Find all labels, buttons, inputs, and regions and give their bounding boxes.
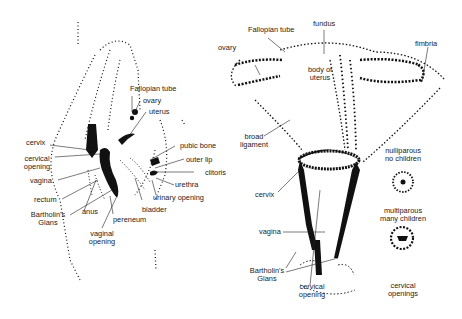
label-left-pubic-bone: pubic bone (180, 142, 216, 150)
label-left-urethra: urethra (175, 181, 198, 189)
label-right-ovary: ovary (218, 44, 236, 52)
multiparous-opening-drawing (391, 227, 413, 249)
label-right-fundus: fundus (313, 20, 335, 28)
label-right-cervix: cervix (255, 191, 274, 199)
label-nulliparous: nulliparous no children (380, 147, 426, 163)
label-left-vaginal-opening: vaginal opening (86, 230, 118, 246)
right-uterus-body-texture (340, 55, 356, 150)
label-left-urinary-opening: urinary opening (153, 194, 204, 202)
label-left-clitoris: clitoris (205, 169, 226, 177)
left-body-outline (51, 22, 185, 280)
label-multiparous: multiparous many children (376, 207, 430, 223)
label-left-anus: anus (82, 208, 98, 216)
label-left-cervix: cervix (26, 139, 45, 147)
label-right-fallopian-tube: Fallopian tube (248, 26, 294, 34)
label-right-bartholins-glans: Bartholin's Glans (247, 267, 287, 283)
label-left-outer-lip: outer lip (186, 156, 212, 164)
label-left-rectum: rectum (34, 196, 57, 204)
label-right-cervical-opening: cervical opening (296, 283, 328, 299)
label-left-pereneum: pereneum (113, 216, 146, 224)
label-left-bartholins-glans: Bartholin's Glans (28, 211, 68, 227)
nulliparous-opening-drawing (393, 172, 413, 192)
label-right-vagina: vagina (259, 228, 281, 236)
label-right-body-of-uterus: body of uterus (300, 66, 340, 82)
label-left-vagina: vagina (30, 177, 52, 185)
label-left-uterus: uterus (149, 108, 170, 116)
left-vagina-shape (100, 148, 119, 198)
left-uterus-shape (86, 124, 98, 158)
right-vagina-right-wall (334, 162, 360, 258)
right-ovary-right (360, 59, 424, 82)
label-left-fallopian-tube: Fallopian tube (130, 85, 176, 93)
label-right-fimbria: fimbria (415, 40, 437, 48)
label-left-cervical-opening: cervical opening (22, 155, 52, 171)
label-right-broad-ligament: broad ligament (236, 133, 272, 149)
anatomy-diagram: Fallopian tube ovary uterus cervix cervi… (0, 0, 462, 319)
label-left-bladder: bladder (142, 206, 167, 214)
label-left-ovary: ovary (143, 97, 161, 105)
label-cervical-openings-caption: cervical openings (382, 282, 424, 298)
